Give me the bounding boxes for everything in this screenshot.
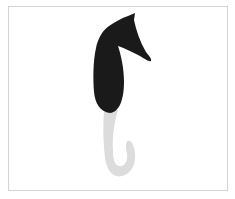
seahorse-tail: [103, 110, 135, 176]
seahorse-body: [93, 13, 151, 113]
seahorse-illustration: [0, 0, 235, 199]
